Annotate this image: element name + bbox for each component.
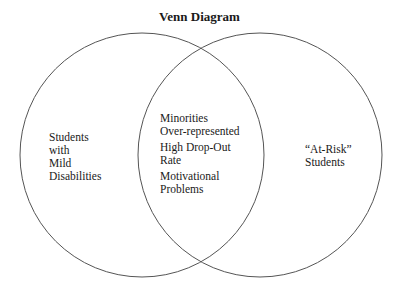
intersection-label: Minorities Over-represented High Drop-Ou… xyxy=(160,112,240,196)
label-line: Students xyxy=(49,131,101,144)
label-line: High Drop-Out xyxy=(160,141,240,154)
label-line: Students xyxy=(305,156,352,169)
label-line: with xyxy=(49,144,101,157)
right-set-label: “At-Risk” Students xyxy=(305,143,352,169)
label-line: Disabilities xyxy=(49,170,101,183)
left-set-label: Students with Mild Disabilities xyxy=(49,131,101,183)
label-line: Rate xyxy=(160,154,240,167)
label-line: Minorities xyxy=(160,112,240,125)
label-line: Motivational xyxy=(160,170,240,183)
label-line: Mild xyxy=(49,157,101,170)
label-line: “At-Risk” xyxy=(305,143,352,156)
label-line: Over-represented xyxy=(160,125,240,138)
label-line: Problems xyxy=(160,183,240,196)
